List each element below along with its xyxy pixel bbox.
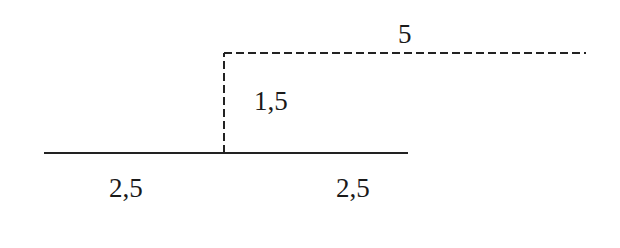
riser-height-label: 1,5 bbox=[254, 86, 288, 116]
base-left-length-label: 2,5 bbox=[109, 173, 143, 203]
step-profile-diagram: 5 1,5 2,5 2,5 bbox=[0, 0, 620, 248]
base-right-length-label: 2,5 bbox=[336, 173, 370, 203]
top-length-label: 5 bbox=[398, 19, 412, 49]
